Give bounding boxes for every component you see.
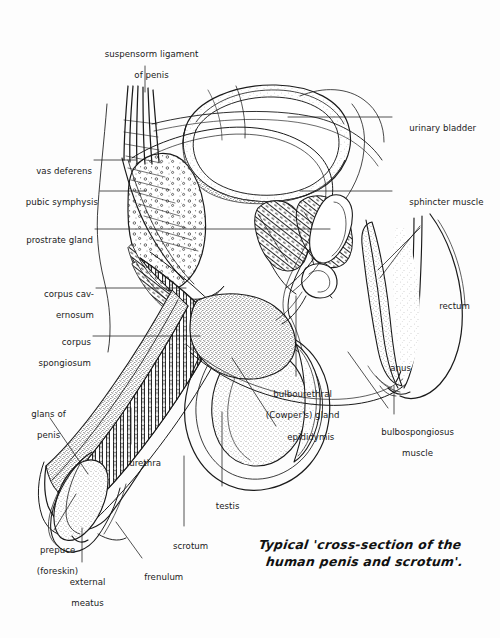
- label-bulbospongiosus-muscle: bulbospongiosus muscle: [360, 416, 464, 469]
- label-rectum: rectum: [428, 290, 478, 322]
- urinary-bladder: [183, 85, 351, 204]
- label-vas-deferens-line1: vas deferens: [36, 166, 92, 176]
- label-testis-line1: testis: [216, 501, 240, 511]
- label-corpus-spongiosum: corpus spongiosum: [0, 326, 91, 379]
- anatomy-diagram-page: suspensorm ligament of penis vas deferen…: [0, 0, 500, 638]
- label-external-meatus: external meatus: [46, 566, 118, 619]
- label-corpus-spongiosum-line1: corpus: [62, 337, 91, 347]
- label-sphincter-muscle: sphincter muscle: [398, 186, 498, 218]
- label-anus-line1: anus: [390, 363, 411, 373]
- label-suspensory-ligament-line2: of penis: [134, 70, 168, 80]
- label-bulbourethral-gland-line1: bulbourethral: [273, 389, 332, 399]
- label-prostrate-gland-line1: prostrate gland: [26, 235, 93, 245]
- label-urethra-line1: urethra: [129, 458, 161, 468]
- label-vas-deferens: vas deferens: [0, 155, 92, 187]
- label-urethra: urethra: [118, 447, 178, 479]
- label-glans-of-penis-line2: penis: [37, 430, 60, 440]
- figure-caption: Typical 'cross-section of the human peni…: [256, 536, 470, 570]
- bulbourethral-gland: [276, 264, 337, 324]
- label-anus: anus: [374, 352, 416, 384]
- label-prostrate-gland: prostrate gland: [0, 224, 93, 256]
- label-urinary-bladder-line1: urinary bladder: [409, 123, 476, 133]
- label-sphincter-muscle-line1: sphincter muscle: [409, 197, 483, 207]
- label-bulbospongiosus-muscle-line2: muscle: [402, 448, 433, 458]
- label-frenulum: frenulum: [133, 561, 199, 593]
- label-corpus-cavernosum-line1: corpus cav-: [44, 289, 94, 299]
- label-pubic-symphysis: pubic symphysis: [0, 186, 98, 218]
- label-frenulum-line1: frenulum: [144, 572, 183, 582]
- label-scrotum-line1: scrotum: [173, 541, 208, 551]
- label-external-meatus-line2: meatus: [71, 598, 104, 608]
- figure-caption-line2: human penis and scrotum'.: [256, 553, 468, 570]
- label-suspensory-ligament: suspensorm ligament of penis: [70, 38, 222, 91]
- label-bulbourethral-gland: bulbourethral (Cowper's) gland: [250, 378, 344, 431]
- label-pubic-symphysis-line1: pubic symphysis: [26, 197, 98, 207]
- label-bulbourethral-gland-line2: (Cowper's) gland: [266, 410, 340, 420]
- label-rectum-line1: rectum: [439, 301, 470, 311]
- label-corpus-cavernosum-line2: ernosum: [56, 310, 94, 320]
- label-suspensory-ligament-line1: suspensorm ligament: [105, 49, 199, 59]
- label-corpus-spongiosum-line2: spongiosum: [38, 358, 91, 368]
- label-urinary-bladder: urinary bladder: [398, 112, 496, 144]
- label-testis: testis: [198, 490, 246, 522]
- label-bulbospongiosus-muscle-line1: bulbospongiosus: [381, 427, 454, 437]
- label-corpus-cavernosum: corpus cav- ernosum: [0, 278, 94, 331]
- label-prepuce-line1: prepuce: [40, 545, 75, 555]
- label-glans-of-penis-line1: glans of: [31, 409, 65, 419]
- label-external-meatus-line1: external: [70, 577, 106, 587]
- figure-caption-line1: Typical 'cross-section of the: [258, 537, 462, 552]
- abdominal-wall-contour: [97, 104, 110, 352]
- label-scrotum: scrotum: [156, 530, 214, 562]
- label-glans-of-penis: glans of penis: [10, 398, 76, 451]
- label-epididymis-line1: epididymis: [287, 432, 334, 442]
